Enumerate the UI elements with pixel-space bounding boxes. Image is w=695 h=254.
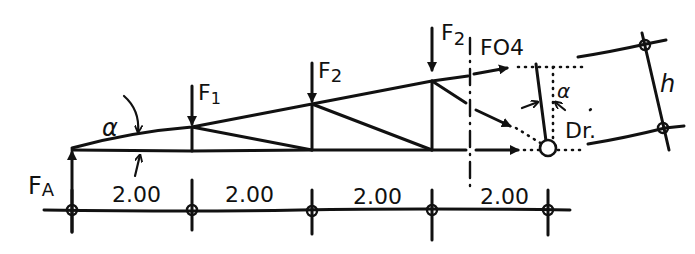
label-span-4: 2.00: [480, 184, 529, 209]
top-chord-force-arrow: [474, 68, 507, 74]
label-load-1: F1: [198, 80, 221, 108]
label-height: h: [660, 70, 675, 98]
truss: [72, 76, 468, 151]
label-span-2: 2.00: [225, 182, 274, 207]
diagonal-force-arrow: [476, 110, 510, 126]
top-chord: [72, 76, 468, 148]
diagonal-member-1: [192, 127, 312, 150]
label-span-3: 2.00: [353, 184, 402, 209]
label-load-2b: F2: [441, 20, 465, 49]
pivot-node-circle: [540, 140, 556, 156]
diagonal-member-2: [312, 104, 432, 150]
label-load-2a: F2: [318, 58, 342, 86]
label-angle-right: α: [557, 79, 570, 103]
label-support-reaction: FA: [28, 172, 55, 200]
angle-arrow-bottom: [135, 155, 140, 176]
diagonal-member-3: [432, 81, 466, 103]
truss-diagram: FA F1 F2 F2 FO4 α α Dr. h 2.00 2.00 2.00…: [0, 0, 695, 254]
label-top-chord-force: FO4: [480, 35, 524, 60]
label-span-1: 2.00: [112, 182, 161, 207]
label-pivot: Dr.: [565, 118, 596, 143]
label-angle-left: α: [102, 114, 118, 142]
bottom-chord: [72, 150, 466, 151]
angle-arrow-top: [124, 96, 138, 132]
